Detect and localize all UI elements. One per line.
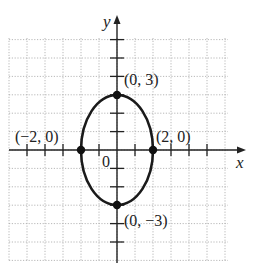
data-point [113,201,121,209]
origin-label: 0 [102,153,110,170]
data-point [113,91,121,99]
point-label-left: (−2, 0) [15,128,59,146]
data-point [149,146,157,154]
point-label-bottom: (0, −3) [124,212,168,230]
x-axis-label: x [235,153,244,172]
y-axis-label: y [101,12,111,31]
point-label-right: (2, 0) [156,128,191,146]
point-label-top: (0, 3) [124,71,159,89]
y-axis-arrow-icon [114,15,121,24]
data-point [77,146,85,154]
ellipse-graph: x y 0 (0, 3) (−2, 0) (2, 0) (0, −3) [0,0,263,269]
